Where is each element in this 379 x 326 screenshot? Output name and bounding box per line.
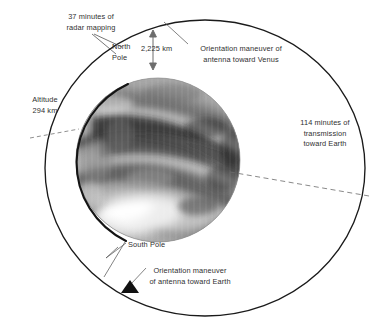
label-venus-maneuver: Orientation maneuver of antenna toward V… — [189, 44, 293, 65]
label-transmission-toward-earth: 114 minutes of transmission toward Earth — [283, 118, 367, 150]
label-earth-maneuver: Orientation maneuver of antenna toward E… — [139, 266, 241, 287]
south-pole-leader-main — [104, 242, 125, 277]
label-radar-mapping: 37 minutes of radar mapping — [51, 12, 131, 33]
orbit-diagram: 37 minutes of radar mapping Altitude 294… — [0, 0, 379, 326]
altitude-leader-dashed — [30, 129, 79, 138]
maneuver-marker-triangle — [121, 280, 139, 293]
label-distance-2225km: 2,225 km — [141, 44, 187, 55]
label-altitude: Altitude 294 km — [14, 95, 76, 116]
label-north-pole: North Pole — [112, 41, 144, 63]
venus-maneuver-leader — [164, 22, 188, 44]
venus-planet — [70, 78, 252, 248]
label-south-pole: South Pole — [128, 240, 184, 251]
earth-line-of-sight-dashed — [230, 172, 369, 196]
